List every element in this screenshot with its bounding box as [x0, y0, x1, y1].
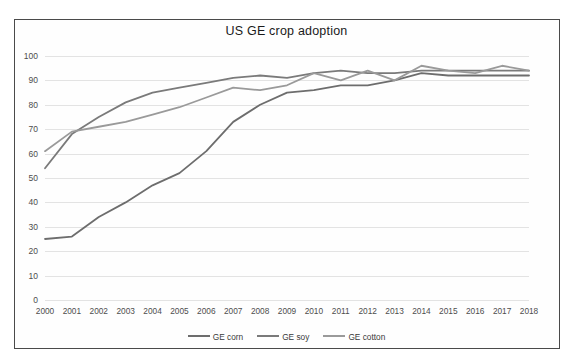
- legend-item-label: GE cotton: [348, 332, 385, 342]
- chart-legend: GE cornGE soyGE cotton: [0, 331, 573, 342]
- chart-figure: US GE crop adoption 01020304050607080901…: [0, 0, 573, 363]
- series-line-ge-corn: [45, 73, 529, 239]
- legend-line-swatch: [323, 335, 345, 337]
- gridline: [45, 300, 529, 301]
- plot-area: [45, 56, 529, 300]
- chart-title: US GE crop adoption: [0, 24, 573, 38]
- y-axis-tick-label: 20: [8, 246, 38, 256]
- x-axis-tick-label: 2018: [512, 306, 546, 316]
- legend-line-swatch: [257, 335, 279, 337]
- legend-item-ge-soy[interactable]: GE soy: [257, 331, 309, 342]
- legend-item-ge-cotton[interactable]: GE cotton: [323, 331, 385, 342]
- y-axis-tick-label: 40: [8, 197, 38, 207]
- y-axis-tick-label: 10: [8, 271, 38, 281]
- y-axis-tick-label: 100: [8, 51, 38, 61]
- y-axis-tick-label: 50: [8, 173, 38, 183]
- y-axis-tick-label: 30: [8, 222, 38, 232]
- legend-item-ge-corn[interactable]: GE corn: [188, 331, 243, 342]
- y-axis-tick-label: 0: [8, 295, 38, 305]
- legend-item-label: GE corn: [213, 332, 243, 342]
- legend-item-label: GE soy: [282, 332, 309, 342]
- y-axis-tick-label: 90: [8, 75, 38, 85]
- legend-line-swatch: [188, 335, 210, 337]
- y-axis-tick-label: 70: [8, 124, 38, 134]
- y-axis-tick-label: 80: [8, 100, 38, 110]
- series-lines-group: [45, 56, 529, 300]
- y-axis-tick-label: 60: [8, 149, 38, 159]
